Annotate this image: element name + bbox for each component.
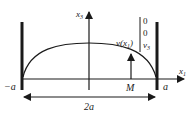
width-label: 2a — [84, 101, 94, 112]
x3-axis-label: x3 — [75, 9, 83, 20]
x1-axis-label: x1 — [178, 66, 186, 77]
component-3: v3 — [143, 40, 150, 51]
point-m-label: M — [125, 82, 135, 93]
component-2: 0 — [143, 28, 148, 38]
right-wall-label: a — [163, 81, 168, 92]
flow-diagram: x3 x1 −a a M 2a v(x1) 0 0 v3 — [0, 0, 195, 116]
component-1: 0 — [143, 16, 148, 26]
left-wall-label: −a — [4, 81, 16, 92]
velocity-label: v(x1) — [116, 38, 133, 49]
